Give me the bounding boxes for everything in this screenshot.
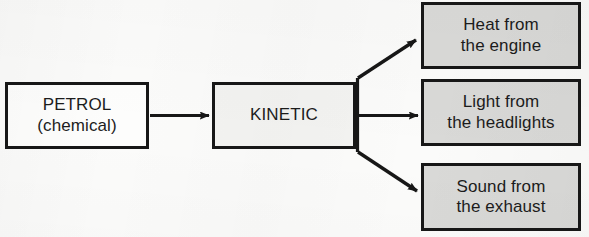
node-petrol-line1: PETROL [43,95,112,115]
node-petrol-line2: (chemical) [37,116,116,136]
node-heat-output: Heat from the engine [421,2,581,69]
node-light-output: Light from the headlights [421,79,581,146]
node-heat-line2: the engine [461,36,541,56]
node-petrol: PETROL (chemical) [5,82,149,149]
node-sound-line1: Sound from [457,177,546,197]
node-sound-line2: the exhaust [457,197,546,217]
edge-kinetic-to-heat [358,40,416,78]
node-kinetic-line1: KINETIC [250,105,318,125]
edge-kinetic-to-sound [358,152,417,191]
node-light-line2: the headlights [447,113,554,133]
node-kinetic: KINETIC [212,82,356,149]
diagram-canvas: PETROL (chemical) KINETIC Heat from the … [0,0,589,237]
node-light-line1: Light from [463,92,540,112]
node-heat-line1: Heat from [463,15,539,35]
node-sound-output: Sound from the exhaust [421,163,581,231]
